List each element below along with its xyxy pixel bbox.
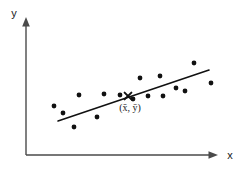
data-point (95, 115, 100, 120)
plot-canvas: y x (x̄, ȳ) (0, 0, 243, 171)
data-point (61, 111, 66, 116)
data-point (52, 104, 57, 109)
centroid-label: (x̄, ȳ) (119, 102, 141, 114)
data-point (158, 74, 163, 79)
data-point (138, 76, 143, 81)
data-point (192, 61, 197, 66)
data-point (118, 93, 123, 98)
data-point (72, 125, 77, 130)
data-point (161, 94, 166, 99)
scatter-plot-figure: y x (x̄, ȳ) (0, 0, 243, 171)
x-axis-label: x (227, 149, 233, 161)
y-axis-label: y (11, 7, 17, 19)
data-point (174, 86, 179, 91)
data-point (183, 89, 188, 94)
y-axis-arrow-icon (22, 17, 30, 27)
data-point (146, 94, 151, 99)
x-axis-arrow-icon (209, 151, 219, 159)
data-point (209, 81, 214, 86)
data-point (102, 92, 107, 97)
data-point (77, 93, 82, 98)
